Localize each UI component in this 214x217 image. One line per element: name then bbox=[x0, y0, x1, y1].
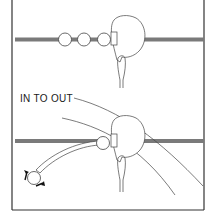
club-path-track bbox=[36, 141, 100, 173]
top-panel bbox=[15, 16, 204, 88]
ball-3 bbox=[98, 33, 111, 46]
ball-backswing bbox=[28, 172, 41, 185]
clubhead-icon-bottom bbox=[111, 116, 145, 192]
ball-2 bbox=[78, 33, 91, 46]
ball-impact bbox=[97, 137, 110, 150]
golf-swing-diagram bbox=[0, 0, 214, 217]
ball-1 bbox=[59, 33, 72, 46]
target-line-right bbox=[143, 38, 204, 42]
rotation-arrowhead-icon bbox=[24, 170, 29, 174]
target-line-right-bottom bbox=[143, 139, 204, 143]
swing-path-label: IN TO OUT bbox=[20, 93, 73, 104]
clubhead-icon bbox=[111, 16, 145, 88]
bottom-panel bbox=[15, 98, 204, 195]
